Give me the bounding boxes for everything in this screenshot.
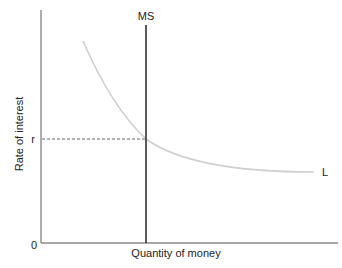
origin-label: 0 (31, 239, 37, 251)
x-axis-label: Quantity of money (131, 247, 221, 259)
demand-label: L (322, 166, 328, 178)
y-axis-label: Rate of interest (13, 97, 25, 172)
supply-label: MS (138, 10, 155, 22)
money-market-diagram: MS L r 0 Quantity of money Rate of inter… (0, 0, 342, 268)
rate-label: r (31, 133, 35, 145)
liquidity-demand-curve (83, 41, 314, 172)
